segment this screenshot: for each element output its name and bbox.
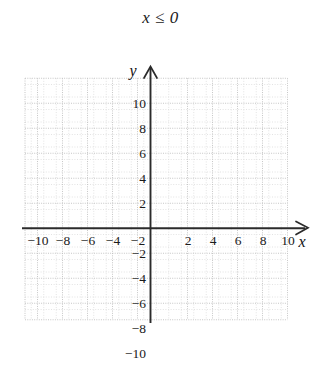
y-tick-label: 4 (139, 171, 146, 186)
x-tick-label: 6 (235, 233, 242, 248)
coordinate-plane: y x −10 −8 −6 −4 −2 2 4 6 8 10 10 8 6 4 … (0, 55, 321, 376)
x-tick-label: −8 (56, 233, 71, 248)
y-tick-label: 6 (139, 146, 146, 161)
y-tick-label: 8 (139, 121, 146, 136)
x-tick-label: 10 (281, 233, 295, 248)
y-tick-label: −10 (125, 346, 146, 361)
y-tick-label: 2 (139, 196, 146, 211)
major-gridlines (25, 78, 288, 320)
x-tick-label: −4 (106, 233, 121, 248)
y-axis-label: y (127, 62, 137, 80)
x-tick-label: 2 (185, 233, 192, 248)
page-title: x ≤ 0 (0, 8, 321, 28)
x-axis-label: x (297, 233, 305, 250)
graph-svg: y x −10 −8 −6 −4 −2 2 4 6 8 10 10 8 6 4 … (0, 55, 321, 376)
x-tick-label: −10 (27, 233, 48, 248)
x-tick-label: 4 (210, 233, 217, 248)
x-tick-label: −6 (81, 233, 96, 248)
y-tick-label: −4 (132, 271, 147, 286)
y-tick-label: 10 (133, 96, 147, 111)
minor-gridlines (25, 78, 288, 320)
x-tick-label: 8 (260, 233, 267, 248)
y-tick-label: −8 (132, 321, 147, 336)
y-tick-label: −6 (132, 296, 147, 311)
y-tick-label: −2 (132, 246, 146, 261)
x-tick-labels: −10 −8 −6 −4 −2 2 4 6 8 10 (27, 233, 295, 248)
